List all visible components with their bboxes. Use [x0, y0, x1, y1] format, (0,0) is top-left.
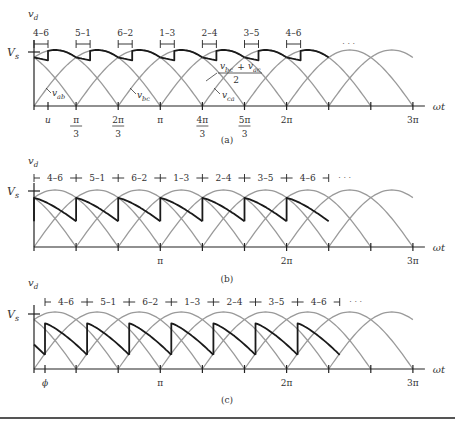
- output-voltage-vd: [118, 50, 160, 60]
- panel-b-delay-waveform: vdVsωtπ2π3π4–65–16–21–32–43–54–6· · ·(b): [7, 155, 446, 284]
- tick-label: 3π: [407, 115, 419, 125]
- y-axis-label-vd: vd: [28, 277, 39, 291]
- output-voltage-vd: [245, 50, 287, 60]
- curve-label: vbc: [137, 90, 150, 103]
- commutation-label: 1–3: [159, 28, 175, 38]
- tick-label: 3π: [407, 256, 419, 266]
- average-numerator-a: vbc: [220, 61, 233, 74]
- tick-label-numerator: π: [73, 115, 79, 125]
- tick-label-numerator: 5π: [239, 115, 251, 125]
- output-voltage-vd: [160, 50, 202, 60]
- tick-label: ϕ: [42, 378, 48, 388]
- line-voltage-arch: [34, 58, 76, 107]
- tick-label-denominator: 3: [73, 129, 79, 139]
- commutation-label: 6–2: [142, 297, 158, 307]
- tick-label-numerator: 4π: [197, 115, 209, 125]
- line-voltage-arch: [34, 312, 118, 369]
- line-voltage-arch: [34, 198, 76, 247]
- tick-label: 2π: [281, 115, 293, 125]
- leader-line: [46, 88, 51, 93]
- x-axis-label-omega-t: ωt: [433, 242, 446, 253]
- average-plus: +: [237, 62, 245, 72]
- vs-label: Vs: [7, 308, 19, 323]
- commutation-label: 1–3: [184, 297, 200, 307]
- commutation-label: 4–6: [286, 28, 302, 38]
- commutation-label: 2–4: [226, 297, 242, 307]
- panel-a-overlap-waveform: vdVsωtuπ32π3π4π35π32π3π4–65–16–21–32–43–…: [7, 8, 446, 145]
- tick-label-denominator: 3: [242, 129, 248, 139]
- vs-label: Vs: [7, 185, 19, 200]
- commutation-label: 5–1: [100, 297, 116, 307]
- line-voltage-arch: [34, 320, 76, 369]
- tick-label-denominator: 3: [200, 129, 206, 139]
- tick-label: 2π: [281, 256, 293, 266]
- average-denominator: 2: [233, 75, 239, 85]
- output-voltage-vd: [287, 50, 329, 60]
- panel-caption-b: (b): [221, 274, 234, 284]
- leader-line: [206, 73, 217, 81]
- line-voltage-arch: [329, 50, 413, 106]
- output-voltage-vd: [76, 50, 118, 60]
- line-voltage-arch: [329, 312, 413, 369]
- commutation-label: 6–2: [117, 28, 133, 38]
- commutation-label: 2–4: [201, 28, 217, 38]
- commutation-label: 4–6: [311, 297, 327, 307]
- y-axis-label-vd: vd: [28, 8, 39, 22]
- rectifier-waveform-figure: vdVsωtuπ32π3π4π35π32π3π4–65–16–21–32–43–…: [0, 0, 455, 427]
- leader-line: [214, 88, 220, 94]
- continuation-dots: · · ·: [349, 297, 362, 306]
- leader-line: [130, 88, 136, 94]
- commutation-label: 2–4: [215, 173, 231, 183]
- x-axis-label-omega-t: ωt: [433, 101, 446, 112]
- tick-label: 2π: [281, 378, 293, 388]
- commutation-label: 4–6: [47, 173, 63, 183]
- output-voltage-vd: [34, 345, 45, 355]
- tick-label-denominator: 3: [115, 129, 121, 139]
- curve-label: vab: [52, 88, 65, 101]
- line-voltage-arch: [329, 190, 413, 247]
- panel-caption-a: (a): [221, 135, 233, 145]
- tick-label: π: [157, 256, 163, 266]
- tick-label: 3π: [407, 378, 419, 388]
- commutation-label: 5–1: [89, 173, 105, 183]
- vs-label: Vs: [7, 46, 19, 61]
- commutation-label: 1–3: [173, 173, 189, 183]
- curve-label: vca: [222, 90, 235, 103]
- panel-caption-c: (c): [221, 395, 233, 405]
- commutation-label: 4–6: [300, 173, 316, 183]
- continuation-dots: · · ·: [338, 173, 351, 182]
- tick-label: π: [157, 115, 163, 125]
- panel-c-delay-overlap-waveform: vdVsωtϕπ2π3π4–65–16–21–32–43–54–6· · ·(c…: [7, 277, 446, 405]
- commutation-label: 3–5: [258, 173, 274, 183]
- tick-label: π: [157, 378, 163, 388]
- bottom-divider-rule: [0, 417, 455, 419]
- y-axis-label-vd: vd: [28, 155, 39, 169]
- tick-label: u: [45, 115, 51, 125]
- commutation-label: 4–6: [58, 297, 74, 307]
- tick-label-numerator: 2π: [112, 115, 124, 125]
- commutation-label: 4–6: [33, 28, 49, 38]
- average-numerator-b: vac: [248, 61, 261, 74]
- commutation-label: 3–5: [244, 28, 260, 38]
- continuation-dots: · · ·: [342, 39, 355, 48]
- commutation-label: 6–2: [131, 173, 147, 183]
- x-axis-label-omega-t: ωt: [433, 364, 446, 375]
- commutation-label: 3–5: [269, 297, 285, 307]
- output-voltage-vd: [34, 50, 76, 60]
- output-voltage-vd: [202, 50, 244, 60]
- commutation-label: 5–1: [75, 28, 91, 38]
